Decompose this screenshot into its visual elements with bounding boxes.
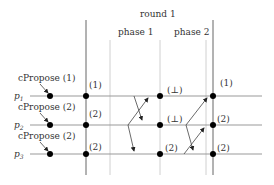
p3-propose-dot	[47, 151, 53, 157]
p3-round-start-dot	[83, 151, 89, 157]
msg-p2-to-p3-phase1	[128, 125, 134, 151]
p1-propose-label: cPropose (1)	[18, 73, 76, 83]
p3-round-end-dot	[210, 151, 216, 157]
p2-propose-arrow	[40, 113, 48, 122]
p3-start-value: (2)	[89, 142, 102, 152]
p3-label: p3	[14, 149, 24, 160]
round-diagram: round 1 phase 1 phase 2 p1 p2 p3 cPropos…	[0, 0, 274, 185]
p1-phase1-dot	[157, 93, 163, 99]
p1-propose-dot	[47, 93, 53, 99]
p2-round-start-dot	[83, 122, 89, 128]
p2-propose-label: cPropose (2)	[18, 102, 76, 112]
p3-end-value: (2)	[217, 143, 230, 153]
p3-propose-label: cPropose (2)	[18, 131, 76, 141]
p3-propose-arrow	[40, 142, 48, 151]
p1-label: p1	[14, 91, 24, 102]
p2-label: p2	[14, 120, 24, 131]
p2-start-value: (2)	[89, 109, 102, 119]
p2-round-end-dot	[210, 122, 216, 128]
p1-propose-arrow	[40, 84, 48, 93]
p2-phase1-dot	[157, 122, 163, 128]
p2-phase1-value: (⊥)	[167, 114, 183, 124]
p3-phase1-value: (2)	[165, 143, 178, 153]
p1-start-value: (1)	[89, 80, 102, 90]
round-label: round 1	[140, 9, 176, 19]
msg-p2-to-p1-phase2	[186, 98, 207, 125]
p3-phase1-dot	[157, 151, 163, 157]
msg-p3-to-p2-phase2	[184, 128, 204, 154]
p1-round-start-dot	[83, 93, 89, 99]
p1-round-end-dot	[210, 93, 216, 99]
phase2-label: phase 2	[174, 27, 209, 37]
p2-end-value: (2)	[217, 114, 230, 124]
p1-phase1-value: (⊥)	[167, 85, 183, 95]
p2-propose-dot	[47, 122, 53, 128]
phase1-label: phase 1	[118, 27, 153, 37]
p1-end-value: (1)	[220, 78, 233, 88]
msg-p2-to-p1-phase1	[128, 98, 148, 125]
